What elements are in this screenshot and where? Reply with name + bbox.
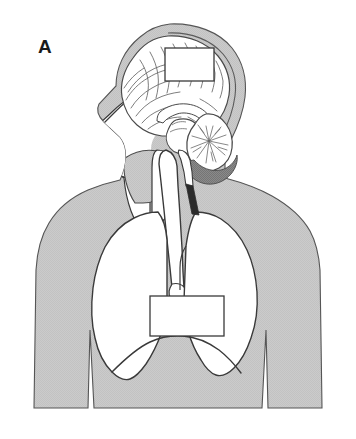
thorax-label-box[interactable] bbox=[150, 296, 224, 336]
panel-letter-label: A bbox=[38, 37, 52, 56]
anatomy-diagram bbox=[0, 0, 356, 439]
anatomy-figure-panel: A bbox=[0, 0, 356, 439]
brain-label-box[interactable] bbox=[165, 48, 214, 81]
